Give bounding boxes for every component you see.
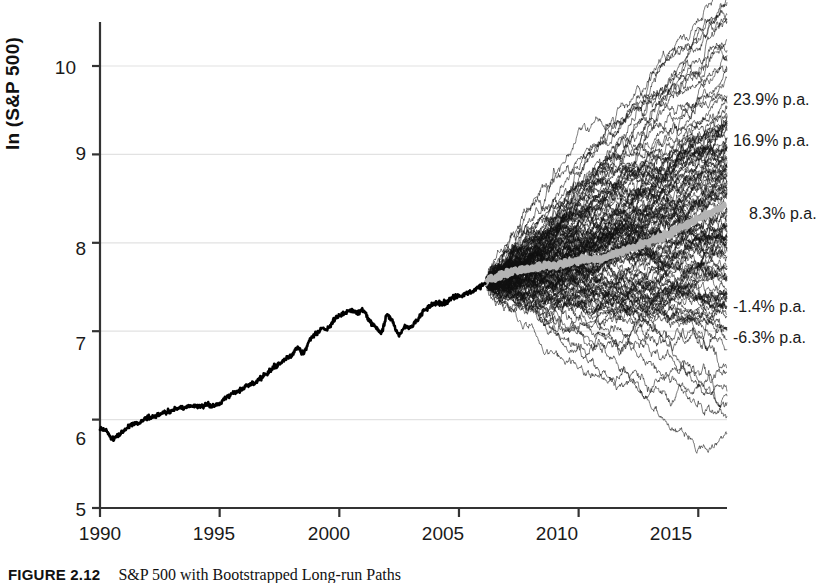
figure-caption: FIGURE 2.12 S&P 500 with Bootstrapped Lo…	[8, 566, 832, 583]
annotation-p-low: -1.4% p.a.	[733, 299, 806, 315]
annotation-p-max: 23.9% p.a.	[733, 92, 810, 108]
annotation-p-high: 16.9% p.a.	[733, 133, 810, 149]
figure-caption-label: FIGURE 2.12	[8, 566, 100, 583]
annotation-p-median: 8.3% p.a.	[749, 206, 817, 222]
simulated-paths	[485, 0, 727, 453]
annotation-p-min: -6.3% p.a.	[733, 330, 806, 346]
plot-canvas	[0, 0, 832, 583]
figure-caption-text: S&P 500 with Bootstrapped Long-run Paths	[118, 566, 401, 583]
figure-panel: ln (S&P 500) 5 6 7 8 9 10 1990 1995 2000…	[0, 0, 832, 583]
historical-price-line	[100, 283, 485, 441]
